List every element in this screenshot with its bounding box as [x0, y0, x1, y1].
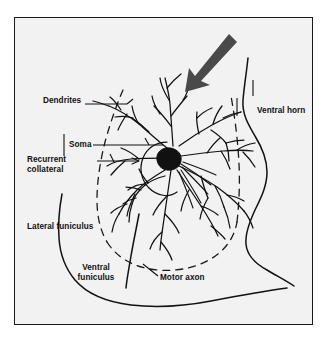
dendrite-right-b1 — [207, 138, 220, 153]
dendrite-up-main — [165, 78, 173, 146]
dendrite-downright2-b3 — [211, 226, 225, 239]
label-motor-axon: Motor axon — [160, 273, 205, 283]
dendrite-upright-b6 — [226, 143, 229, 161]
dendrite-downright-b5 — [224, 207, 230, 228]
dendrite-upright-b1a — [197, 108, 212, 118]
soma-leader-tick — [145, 138, 149, 145]
figure-frame: Dendrites Soma Recurrent collateral Late… — [14, 17, 313, 325]
lateral-funiculus-contour — [59, 194, 287, 306]
dendrite-up-b1a — [152, 96, 160, 114]
pointer-arrow — [185, 34, 237, 92]
dendrite-downright-b3 — [227, 195, 244, 201]
dendrite-upleft-b1 — [132, 118, 149, 132]
dendrite-down-b4 — [161, 242, 172, 260]
label-ventral-horn: Ventral horn — [257, 106, 305, 116]
ventral-horn-right-contour — [243, 58, 294, 286]
label-soma: Soma — [69, 140, 92, 150]
dendrite-right-b4 — [243, 152, 255, 167]
dendrite-left-b1 — [121, 148, 139, 159]
dendrite-right-b3 — [237, 143, 255, 150]
dendrite-up-b4 — [167, 74, 181, 88]
dendrite-upright-b2 — [213, 106, 222, 124]
dendrite-up-b2 — [171, 96, 187, 116]
dendrite-upright-b4 — [211, 130, 226, 143]
dashed-bottom-arc — [107, 222, 237, 270]
dendrite-down-main — [160, 170, 171, 250]
label-ventral-funiculus: Ventral funiculus — [71, 263, 121, 282]
dendrite-downleft-b3 — [111, 204, 127, 213]
dendrite-downleft-b4 — [112, 214, 119, 232]
dendrites-leader-tick — [127, 99, 133, 104]
ventral-funiculus-contour — [126, 214, 139, 288]
figure-root: Dendrites Soma Recurrent collateral Late… — [0, 0, 327, 342]
label-recurrent-collateral: Recurrent collateral — [27, 155, 91, 174]
dendrite-down-b2 — [165, 214, 179, 233]
soma-body-filled — [157, 148, 181, 170]
label-dendrites: Dendrites — [43, 96, 81, 106]
dendrite-upright-b1 — [197, 112, 199, 134]
dendrite-right-main — [181, 150, 253, 156]
pointer-arrow-shape — [185, 34, 237, 92]
label-lateral-funiculus: Lateral funiculus — [27, 222, 93, 232]
dendrite-upright-b5 — [226, 140, 244, 143]
